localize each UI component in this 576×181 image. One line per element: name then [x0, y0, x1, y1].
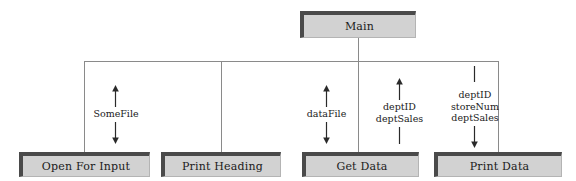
- couple-deptid-storenum-deptsales-plain-line: [469, 66, 480, 82]
- couple-deptid-deptsales-arrow-up: [394, 78, 405, 100]
- couple-deptid-deptsales-line-0: deptID: [366, 101, 433, 113]
- couple-somefile-line-0: SomeFile: [75, 108, 157, 120]
- couple-datafile: dataFile: [290, 108, 363, 120]
- module-get-data-label: Get Data: [336, 160, 387, 173]
- module-main-label: Main: [345, 20, 374, 33]
- connector-drop-print-heading: [221, 61, 222, 154]
- connector-main-stem: [358, 38, 359, 154]
- couple-deptid-storenum-deptsales-line-1: storeNum: [437, 101, 513, 113]
- module-print-data[interactable]: Print Data: [434, 152, 562, 177]
- couple-deptid-deptsales: deptID deptSales: [366, 101, 433, 124]
- module-print-heading[interactable]: Print Heading: [161, 152, 281, 177]
- couple-somefile: SomeFile: [75, 108, 157, 120]
- couple-deptid-storenum-deptsales-arrow-down: [469, 126, 480, 148]
- module-open-for-input-label: Open For Input: [42, 160, 130, 173]
- couple-somefile-arrow-down: [110, 122, 121, 144]
- couple-deptid-storenum-deptsales-line-2: deptSales: [437, 112, 513, 124]
- module-main[interactable]: Main: [300, 11, 416, 38]
- couple-datafile-arrow-down: [321, 122, 332, 144]
- connector-horizontal-bus: [84, 61, 499, 62]
- couple-datafile-line-0: dataFile: [290, 108, 363, 120]
- module-print-heading-label: Print Heading: [182, 160, 263, 173]
- couple-deptid-deptsales-line-1: deptSales: [366, 113, 433, 125]
- module-open-for-input[interactable]: Open For Input: [19, 152, 150, 177]
- module-get-data[interactable]: Get Data: [302, 152, 419, 177]
- structure-chart-canvas: Main SomeFile dataFile deptID de: [0, 0, 576, 181]
- couple-deptid-deptsales-plain-line: [394, 127, 405, 144]
- couple-deptid-storenum-deptsales: deptID storeNum deptSales: [437, 89, 513, 124]
- couple-somefile-arrow-up: [110, 85, 121, 107]
- couple-datafile-arrow-up: [321, 85, 332, 107]
- couple-deptid-storenum-deptsales-line-0: deptID: [437, 89, 513, 101]
- module-print-data-label: Print Data: [470, 160, 530, 173]
